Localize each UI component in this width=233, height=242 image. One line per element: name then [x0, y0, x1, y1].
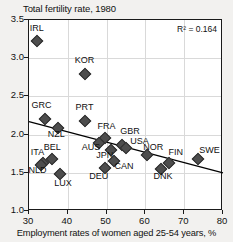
- y-axis-tick-mark: [24, 172, 28, 173]
- data-point-label: IRL: [30, 24, 44, 33]
- x-axis-tick-label: 60: [131, 216, 157, 226]
- data-point-label: GRC: [31, 101, 51, 110]
- data-point-label: DNK: [153, 172, 172, 181]
- data-point-label: BEL: [44, 143, 61, 152]
- data-point-label: CAN: [115, 162, 134, 171]
- y-axis-tick-label: 2.5: [0, 90, 24, 99]
- data-point-label: GBR: [120, 127, 140, 136]
- x-axis-tick-mark: [67, 210, 68, 214]
- x-axis-tick-mark: [144, 210, 145, 214]
- x-axis-tick-mark: [106, 210, 107, 214]
- x-axis-tick-label: 30: [15, 216, 41, 226]
- x-axis-title: Employment rates of women aged 25-54 yea…: [0, 228, 233, 238]
- data-point-label: FRA: [98, 122, 116, 131]
- data-point-label: NOR: [143, 143, 163, 152]
- x-axis-tick-label: 40: [54, 216, 80, 226]
- y-axis-tick-mark: [24, 134, 28, 135]
- x-axis-tick-label: 50: [93, 216, 119, 226]
- y-axis-tick-label: 2.0: [0, 129, 24, 138]
- data-point-label: KOR: [75, 56, 95, 65]
- scatter-chart: Total fertility rate, 1980 IRLKORGRCPRTN…: [0, 0, 233, 242]
- x-axis-tick-label: 70: [170, 216, 196, 226]
- data-point-label: SWE: [199, 146, 220, 155]
- data-point-label: PRT: [76, 103, 94, 112]
- y-axis-tick-label: 1.0: [0, 205, 24, 214]
- x-axis-tick-label: 80: [209, 216, 233, 226]
- y-axis-tick-mark: [24, 57, 28, 58]
- y-axis-title: Total fertility rate, 1980: [23, 3, 116, 14]
- y-axis-tick-label: 1.5: [0, 167, 24, 176]
- y-axis-tick-label: 3.5: [0, 14, 24, 23]
- data-point-label: DEU: [89, 172, 108, 181]
- plot-area: IRLKORGRCPRTNZLFRAAUSGBRUSAJPNBELITANLDN…: [28, 19, 222, 210]
- r-squared-annotation: R² = 0.164: [177, 24, 217, 34]
- data-point-label: LUX: [54, 179, 72, 188]
- data-point-label: FIN: [168, 148, 183, 157]
- x-axis-tick-mark: [28, 210, 29, 214]
- data-point-label: NZL: [48, 130, 65, 139]
- y-axis-tick-mark: [24, 19, 28, 20]
- y-axis-tick-mark: [24, 95, 28, 96]
- data-point-label: ITA: [31, 148, 44, 157]
- data-point-label: NLD: [28, 166, 46, 175]
- y-axis-tick-label: 3.0: [0, 52, 24, 61]
- x-axis-tick-mark: [222, 210, 223, 214]
- x-axis-tick-mark: [183, 210, 184, 214]
